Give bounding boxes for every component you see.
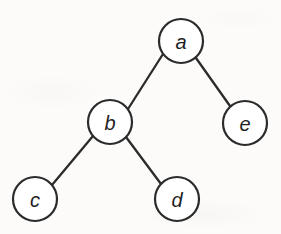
- tree-edge-a-b: [128, 54, 163, 109]
- node-label-a: a: [175, 31, 186, 53]
- tree-node-c[interactable]: c: [13, 177, 57, 221]
- node-label-c: c: [30, 189, 40, 211]
- binary-tree-figure: a b e c d: [0, 0, 281, 234]
- tree-node-e[interactable]: e: [223, 101, 267, 145]
- node-label-b: b: [104, 112, 115, 134]
- tree-edge-b-c: [52, 136, 93, 185]
- tree-edge-group: [52, 54, 230, 185]
- tree-node-d[interactable]: d: [155, 177, 199, 221]
- node-label-e: e: [239, 113, 250, 135]
- tree-node-a[interactable]: a: [159, 19, 203, 63]
- tree-node-b[interactable]: b: [88, 100, 132, 144]
- node-label-d: d: [171, 189, 183, 211]
- tree-diagram-svg: a b e c d: [0, 0, 281, 234]
- tree-edge-b-d: [126, 137, 161, 184]
- tree-edge-a-e: [196, 58, 230, 106]
